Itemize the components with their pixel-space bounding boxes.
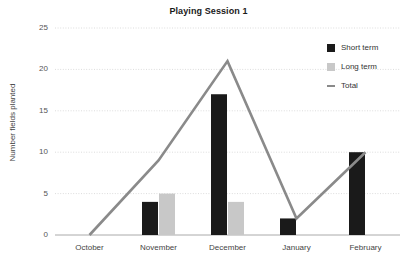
total-line-series <box>90 61 366 235</box>
x-tick-label-october: October <box>55 243 125 252</box>
legend-item-label: Long term <box>341 62 377 71</box>
y-tick-label: 10 <box>28 148 48 156</box>
legend-item-label: Total <box>341 81 358 90</box>
y-tick-label: 25 <box>28 24 48 32</box>
legend-item[interactable]: Long term <box>327 59 413 74</box>
y-tick-label: 5 <box>28 190 48 198</box>
y-tick-label: 20 <box>28 65 48 73</box>
legend-item-label: Short term <box>341 43 378 52</box>
bars <box>142 94 365 235</box>
legend-line-icon <box>327 82 335 90</box>
chart-container: Playing Session 1 Number fields planted … <box>0 0 417 269</box>
bar <box>142 202 158 235</box>
bar <box>159 194 175 235</box>
legend-item[interactable]: Total <box>327 78 413 93</box>
legend-square-icon <box>327 63 335 71</box>
x-tick-label-november: November <box>124 243 194 252</box>
y-tick-label: 0 <box>28 231 48 239</box>
chart-legend: Short termLong termTotal <box>327 40 413 97</box>
bar <box>211 94 227 235</box>
y-tick-label: 15 <box>28 107 48 115</box>
x-tick-label-december: December <box>193 243 263 252</box>
bar <box>228 202 244 235</box>
bar <box>280 218 296 235</box>
legend-square-icon <box>327 44 335 52</box>
x-tick-label-february: February <box>331 243 401 252</box>
legend-item[interactable]: Short term <box>327 40 413 55</box>
x-tick-label-january: January <box>262 243 332 252</box>
